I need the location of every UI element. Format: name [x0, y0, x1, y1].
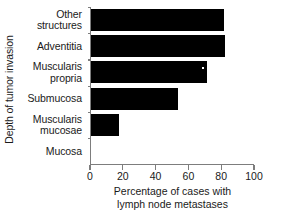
- x-tick-label-0: 0: [87, 170, 93, 182]
- y-axis-tick-mark: [88, 7, 92, 8]
- y-tick-label-other-structures: Other structures: [37, 9, 82, 32]
- x-axis-title: Percentage of cases with lymph node meta…: [55, 185, 290, 210]
- y-tick-label-submucosa: Submucosa: [27, 93, 82, 105]
- x-axis-tick-mark: [155, 165, 156, 170]
- bar-artifact-speck: [202, 67, 204, 69]
- bar-muscularis-mucosae: [91, 114, 119, 136]
- x-axis-tick-mark: [122, 165, 123, 170]
- y-tick-label-muscularis-mucosae: Muscularis mucosae: [33, 114, 82, 137]
- y-axis-tick-labels: Other structures Adventitia Muscularis p…: [18, 7, 86, 165]
- x-tick-label-40: 40: [150, 170, 162, 182]
- x-axis-title-line-1: Percentage of cases with: [114, 185, 231, 197]
- y-tick-label-adventitia: Adventitia: [37, 41, 82, 53]
- x-tick-label-60: 60: [183, 170, 195, 182]
- y-axis-tick-mark: [88, 86, 92, 87]
- bar-muscularis-propria: [91, 61, 207, 83]
- x-axis-tick-mark: [221, 165, 222, 170]
- y-axis-tick-label-row: Muscularis propria: [18, 60, 86, 86]
- bar-row: [91, 86, 254, 112]
- bar-row: [91, 33, 254, 59]
- y-tick-label-muscularis-propria: Muscularis propria: [33, 61, 82, 84]
- y-axis-tick-mark: [88, 59, 92, 60]
- bar-other-structures: [91, 9, 224, 31]
- y-axis-tick-label-row: Mucosa: [18, 139, 86, 165]
- x-axis-tick-labels: 020406080100: [90, 170, 254, 184]
- y-axis-title: Depth of tumor invasion: [0, 0, 18, 178]
- bar-series: [91, 7, 254, 164]
- bar-row: [91, 112, 254, 138]
- x-axis-title-line-2: lymph node metastases: [55, 198, 290, 211]
- y-axis-title-text: Depth of tumor invasion: [4, 35, 15, 144]
- bar-row: [91, 138, 254, 164]
- chart-figure: Depth of tumor invasion Other structures…: [0, 0, 299, 222]
- bar-row: [91, 59, 254, 85]
- y-axis-tick-label-row: Adventitia: [18, 33, 86, 59]
- y-axis-tick-mark: [88, 138, 92, 139]
- x-axis-tick-mark: [89, 165, 90, 170]
- x-axis-tick-mark: [253, 165, 254, 170]
- x-tick-label-100: 100: [245, 170, 263, 182]
- x-tick-label-20: 20: [117, 170, 129, 182]
- plot-area: [90, 7, 254, 165]
- y-axis-tick-label-row: Other structures: [18, 7, 86, 33]
- y-axis-tick-mark: [88, 112, 92, 113]
- y-axis-tick-mark: [88, 33, 92, 34]
- y-tick-label-mucosa: Mucosa: [46, 146, 82, 158]
- bar-submucosa: [91, 88, 178, 110]
- bar-adventitia: [91, 35, 225, 57]
- bar-row: [91, 7, 254, 33]
- x-axis-tick-mark: [188, 165, 189, 170]
- x-tick-label-80: 80: [215, 170, 227, 182]
- y-axis-tick-label-row: Muscularis mucosae: [18, 112, 86, 138]
- y-axis-tick-label-row: Submucosa: [18, 86, 86, 112]
